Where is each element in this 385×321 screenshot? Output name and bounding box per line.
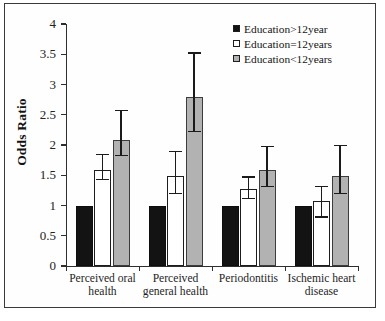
error-bar [259,146,276,188]
category-label-line: general health [130,285,222,298]
y-axis-line [66,24,67,266]
y-axis-tick [61,144,66,145]
x-axis-category-label: Ischemic heartdisease [276,272,368,299]
bar [94,170,111,266]
x-axis-tick [66,266,67,271]
error-bar-stem [266,146,267,188]
error-bar [167,151,184,194]
y-axis-tick [61,23,66,24]
y-axis-tick [61,84,66,85]
legend-label: Education<12years [244,53,332,65]
y-axis-tick [61,205,66,206]
x-axis-tick [212,266,213,271]
x-axis-tick [358,266,359,271]
error-bar [186,52,203,132]
y-axis-title: Odds Ratio [14,87,30,177]
y-axis-tick [61,114,66,115]
figure-container: Odds Ratio 00.511.522.533.54 Perceived o… [0,0,385,321]
legend-swatch-grey [233,55,240,62]
error-bar [332,145,349,194]
legend-item: Education=12years [233,36,332,51]
y-axis-tick-label: 1.5 [22,167,56,183]
error-bar-stem [339,145,340,194]
y-axis-tick-label: 0 [22,258,56,274]
error-bar-stem [120,110,121,157]
error-bar-cap-lower [96,179,109,180]
y-axis-tick-label: 3 [22,77,56,93]
error-bar-cap-lower [334,193,347,194]
error-bar-stem [102,154,103,180]
bar [76,206,93,267]
error-bar [240,176,257,199]
error-bar-cap-lower [242,198,255,199]
chart-legend: Education>12yearEducation=12yearsEducati… [233,21,332,66]
legend-swatch-white [233,40,240,47]
error-bar-cap-lower [261,186,274,187]
error-bar [94,154,111,180]
y-axis-tick [61,235,66,236]
category-label-line: disease [276,285,368,298]
legend-item: Education>12year [233,21,332,36]
y-axis-tick-label: 2 [22,137,56,153]
bar [113,140,130,266]
error-bar-cap-lower [188,131,201,132]
y-axis-tick-label: 1 [22,198,56,214]
x-axis-tick [285,266,286,271]
error-bar-cap-lower [115,155,128,156]
error-bar-stem [193,52,194,132]
bar [149,206,166,267]
error-bar-cap-lower [169,193,182,194]
legend-swatch-black [233,25,240,32]
legend-label: Education=12years [244,38,332,50]
y-axis-tick-label: 2.5 [22,107,56,123]
bar [222,206,239,267]
y-axis-tick-label: 0.5 [22,228,56,244]
y-axis-tick [61,175,66,176]
y-axis-tick [61,54,66,55]
error-bar-stem [248,176,249,199]
legend-label: Education>12year [244,23,328,35]
category-label-line: Ischemic heart [276,272,368,285]
y-axis-tick-label: 3.5 [22,46,56,62]
legend-item: Education<12years [233,51,332,66]
error-bar-stem [175,151,176,194]
error-bar-stem [321,186,322,217]
bar [240,189,257,266]
y-axis-tick-label: 4 [22,16,56,32]
x-axis-tick [139,266,140,271]
error-bar [113,110,130,157]
bar [295,206,312,267]
error-bar-cap-lower [315,216,328,217]
error-bar [313,186,330,217]
